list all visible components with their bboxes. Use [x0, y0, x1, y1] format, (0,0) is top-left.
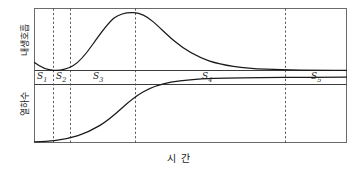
plot-frame	[35, 9, 347, 143]
x-axis-label: 시 간	[0, 150, 358, 165]
growth-phase-chart: 내생호흡 열하수 시 간 S1 S2 S3 S4 S5	[0, 0, 358, 170]
stage-label-s1-sub: 1	[43, 76, 47, 84]
upper-y-axis-label: 내생호흡	[21, 12, 30, 68]
plot-canvas	[0, 0, 358, 170]
stage-label-s4-sub: 4	[208, 76, 212, 84]
stage-label-s4: S4	[202, 72, 212, 83]
stage-label-s2-sub: 2	[62, 76, 66, 84]
curve-growth	[35, 77, 347, 142]
stage-label-s5-sub: 5	[317, 76, 321, 84]
stage-label-s3-sub: 3	[99, 76, 103, 84]
stage-label-s5: S5	[311, 72, 321, 83]
stage-label-s1: S1	[37, 72, 47, 83]
stage-label-s3: S3	[93, 72, 103, 83]
curve-endogenous-respiration	[35, 13, 347, 71]
stage-label-s2: S2	[56, 72, 66, 83]
lower-y-axis-label: 열하수	[21, 81, 30, 127]
